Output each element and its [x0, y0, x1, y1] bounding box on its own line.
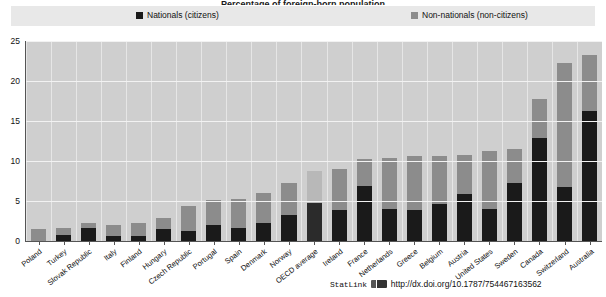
- statlink-url[interactable]: http://dx.doi.org/10.1787/754467163562: [391, 279, 542, 289]
- bar-segment-nationals: [81, 228, 96, 241]
- x-label-slot: OECD average: [301, 245, 326, 295]
- y-axis-tick-20: 20: [11, 76, 20, 86]
- bar-slot: [51, 41, 76, 241]
- x-label-slot: Poland: [25, 245, 50, 295]
- bar-segment-non-nationals: [332, 169, 347, 210]
- bar-ireland[interactable]: [332, 169, 347, 241]
- bar-segment-nationals: [557, 187, 572, 241]
- bar-segment-nationals: [582, 111, 597, 241]
- bar-italy[interactable]: [106, 225, 121, 241]
- bar-norway[interactable]: [281, 183, 296, 241]
- x-axis-label-poland: Poland: [19, 247, 43, 268]
- legend-swatch-non-nationals-icon: [411, 12, 418, 19]
- bar-slot: [427, 41, 452, 241]
- y-axis-tick-25: 25: [11, 36, 20, 46]
- bar-slot: [377, 41, 402, 241]
- statlink-barcode-icon: [371, 280, 387, 288]
- bar-slot: [327, 41, 352, 241]
- bar-segment-nationals: [382, 209, 397, 241]
- legend-label-non-nationals: Non-nationals (non-citizens): [422, 10, 528, 20]
- bar-segment-non-nationals: [357, 159, 372, 185]
- bar-turkey[interactable]: [56, 228, 71, 241]
- bar-canada[interactable]: [532, 99, 547, 241]
- bar-group: [26, 41, 602, 241]
- bar-slot: [251, 41, 276, 241]
- bar-segment-nationals: [507, 183, 522, 241]
- bar-segment-nationals: [281, 215, 296, 241]
- bar-poland[interactable]: [31, 229, 46, 241]
- legend-swatch-nationals-icon: [136, 12, 143, 19]
- bar-segment-non-nationals: [582, 55, 597, 112]
- bar-segment-nationals: [407, 210, 422, 241]
- bar-czech-republic[interactable]: [181, 206, 196, 241]
- bar-slot: [352, 41, 377, 241]
- bar-slot: [302, 41, 327, 241]
- bar-sweden[interactable]: [507, 149, 522, 241]
- bar-segment-non-nationals: [156, 218, 171, 229]
- bar-segment-nationals: [206, 225, 221, 241]
- chart-legend: Nationals (citizens) Non-nationals (non-…: [11, 6, 595, 26]
- bar-segment-nationals: [231, 228, 246, 241]
- gridline-y-15: [26, 121, 602, 122]
- bar-segment-non-nationals: [231, 199, 246, 229]
- bar-slot: [276, 41, 301, 241]
- bar-finland[interactable]: [131, 223, 146, 241]
- bar-segment-nationals: [181, 231, 196, 241]
- bar-segment-nationals: [332, 210, 347, 241]
- y-axis-tick-0: 0: [15, 236, 20, 246]
- y-axis-tick-10: 10: [11, 156, 20, 166]
- bar-slot: [502, 41, 527, 241]
- bar-segment-nationals: [482, 209, 497, 241]
- x-label-slot: Denmark: [251, 245, 276, 295]
- plot-area: [25, 41, 602, 241]
- bar-greece[interactable]: [407, 156, 422, 241]
- bar-segment-nationals: [156, 229, 171, 241]
- bar-slot: [402, 41, 427, 241]
- bar-belgium[interactable]: [432, 156, 447, 241]
- bar-spain[interactable]: [231, 199, 246, 241]
- bar-segment-non-nationals: [106, 225, 121, 236]
- bar-slovak-republic[interactable]: [81, 223, 96, 241]
- bar-segment-non-nationals: [181, 206, 196, 231]
- bar-slot: [176, 41, 201, 241]
- bar-slot: [201, 41, 226, 241]
- chart-plot-wrapper: 0510152025: [0, 30, 606, 246]
- bar-portugal[interactable]: [206, 200, 221, 241]
- gridline-y-20: [26, 81, 602, 82]
- bar-segment-non-nationals: [256, 193, 271, 223]
- legend-item-non-nationals: Non-nationals (non-citizens): [411, 10, 528, 20]
- statlink-label: StatLink: [330, 280, 367, 289]
- bar-segment-non-nationals: [432, 156, 447, 204]
- bar-australia[interactable]: [582, 55, 597, 241]
- x-label-slot: Slovak Republic: [75, 245, 100, 295]
- bar-oecd-average[interactable]: [307, 171, 322, 241]
- bar-slot: [151, 41, 176, 241]
- bar-slot: [477, 41, 502, 241]
- y-axis-tick-15: 15: [11, 116, 20, 126]
- bar-slot: [26, 41, 51, 241]
- gridline-y-5: [26, 201, 602, 202]
- bar-slot: [577, 41, 602, 241]
- bar-slot: [452, 41, 477, 241]
- y-axis-tick-5: 5: [15, 196, 20, 206]
- bar-segment-non-nationals: [507, 149, 522, 183]
- bar-segment-non-nationals: [206, 200, 221, 225]
- bar-netherlands[interactable]: [382, 158, 397, 241]
- bar-hungary[interactable]: [156, 218, 171, 241]
- bar-switzerland[interactable]: [557, 63, 572, 241]
- bar-segment-non-nationals: [56, 228, 71, 235]
- y-axis: 0510152025: [0, 30, 24, 246]
- bar-slot: [552, 41, 577, 241]
- bar-austria[interactable]: [457, 155, 472, 241]
- bar-slot: [126, 41, 151, 241]
- x-label-slot: Italy: [100, 245, 125, 295]
- bar-segment-non-nationals: [307, 171, 322, 204]
- bar-slot: [226, 41, 251, 241]
- bar-segment-non-nationals: [131, 223, 146, 236]
- bar-segment-nationals: [357, 186, 372, 241]
- bar-segment-non-nationals: [532, 99, 547, 138]
- x-label-slot: Portugal: [201, 245, 226, 295]
- x-axis-line: [25, 241, 602, 242]
- gridline-y-10: [26, 161, 602, 162]
- bar-united-states[interactable]: [482, 151, 497, 241]
